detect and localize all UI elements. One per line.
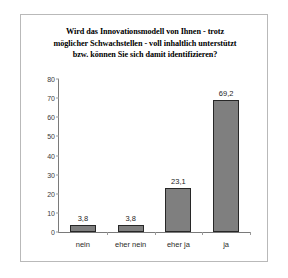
x-axis-category-label: nein [76,240,90,249]
y-axis-tick-mark [56,193,59,194]
chart-title-line-2: möglicher Schwachstellen - voll inhaltli… [27,38,263,50]
bar-value-label: 23,1 [171,177,186,186]
x-axis-tick-mark [155,232,156,235]
x-axis-category-label: eher ja [167,240,190,249]
bar [165,188,191,232]
plot-area: 01020304050607080 neineher neineher jaja… [58,79,250,233]
x-axis-category-label: eher nein [115,240,146,249]
chart-title-line-1: Wird das Innovationsmodell von Ihnen - t… [27,26,263,38]
x-axis-tick-mark [107,232,108,235]
bar-value-label: 3,8 [78,214,88,223]
y-axis-tick-mark [56,212,59,213]
bar [70,225,96,232]
x-axis-category-label: ja [223,240,229,249]
chart-title: Wird das Innovationsmodell von Ihnen - t… [27,26,263,61]
chart-figure: Wird das Innovationsmodell von Ihnen - t… [20,14,268,262]
x-axis-tick-mark [250,232,251,235]
y-axis-tick-mark [56,136,59,137]
y-axis-tick-mark [56,98,59,99]
bar [213,100,239,232]
y-axis-tick-mark [56,117,59,118]
bar-value-label: 69,2 [219,89,234,98]
y-axis-tick-mark [56,79,59,80]
chart-title-line-3: bzw. können Sie sich damit identifiziere… [27,49,263,61]
y-axis-tick-mark [56,232,59,233]
x-axis-tick-mark [202,232,203,235]
bar [118,225,144,232]
y-axis-tick-mark [56,155,59,156]
y-axis-tick-mark [56,174,59,175]
bar-value-label: 3,8 [125,214,135,223]
